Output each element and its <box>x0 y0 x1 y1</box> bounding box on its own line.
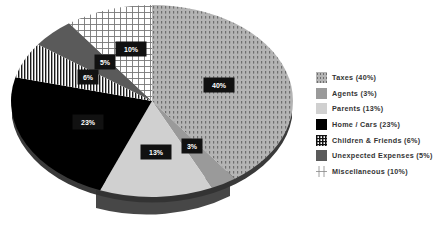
svg-text:5%: 5% <box>100 59 111 66</box>
legend-label: Children & Friends (6%) <box>332 136 420 145</box>
pie-chart: 40%3%13%23%6%5%10% <box>0 0 300 239</box>
legend-item-home-cars: Home / Cars (23%) <box>316 117 442 133</box>
chart-legend: Taxes (40%) Agents (3%) Parents (13%) Ho… <box>316 70 442 179</box>
legend-item-taxes: Taxes (40%) <box>316 70 442 86</box>
svg-text:23%: 23% <box>81 119 96 126</box>
swatch-unexpected-expenses <box>316 150 327 161</box>
svg-text:10%: 10% <box>124 46 139 53</box>
pie-slices <box>11 5 293 197</box>
legend-item-miscellaneous: Miscellaneous (10%) <box>316 164 442 180</box>
legend-item-agents: Agents (3%) <box>316 86 442 102</box>
legend-label: Unexpected Expenses (5%) <box>332 151 433 160</box>
data-label-children-friends: 6% <box>78 70 99 85</box>
data-label-agents: 3% <box>182 139 203 154</box>
legend-item-children-friends: Children & Friends (6%) <box>316 132 442 148</box>
swatch-children-friends <box>316 135 327 146</box>
data-label-taxes: 40% <box>204 78 235 93</box>
svg-text:3%: 3% <box>187 143 198 150</box>
svg-text:40%: 40% <box>212 82 227 89</box>
swatch-parents <box>316 103 327 114</box>
swatch-home-cars <box>316 119 327 130</box>
legend-item-unexpected-expenses: Unexpected Expenses (5%) <box>316 148 442 164</box>
legend-item-parents: Parents (13%) <box>316 101 442 117</box>
data-label-unexpected-expenses: 5% <box>95 55 116 70</box>
data-label-miscellaneous: 10% <box>116 42 147 57</box>
swatch-taxes <box>316 72 327 83</box>
svg-text:13%: 13% <box>149 149 164 156</box>
data-label-parents: 13% <box>141 145 172 160</box>
legend-label: Miscellaneous (10%) <box>332 167 408 176</box>
legend-label: Agents (3%) <box>332 89 377 98</box>
legend-label: Taxes (40%) <box>332 73 376 82</box>
swatch-miscellaneous <box>316 166 327 177</box>
legend-label: Home / Cars (23%) <box>332 120 400 129</box>
svg-text:6%: 6% <box>83 74 94 81</box>
data-label-home-cars: 23% <box>73 115 104 130</box>
legend-label: Parents (13%) <box>332 104 383 113</box>
swatch-agents <box>316 88 327 99</box>
